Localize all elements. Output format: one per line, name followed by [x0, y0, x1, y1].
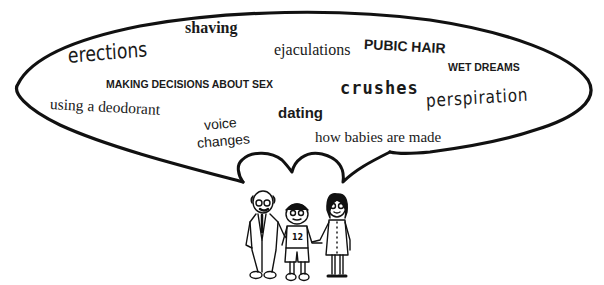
family-figures: 12 [0, 0, 604, 285]
boy-shirt-number: 12 [292, 233, 303, 242]
woman-figure [312, 194, 350, 276]
boy-figure [282, 204, 322, 281]
illustration: shaving erections ejaculations PUBIC HAI… [0, 0, 604, 285]
